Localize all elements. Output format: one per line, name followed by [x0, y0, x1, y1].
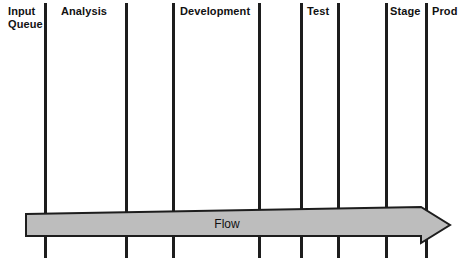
column-label-stage: Stage: [390, 5, 420, 18]
column-divider-analysis: [125, 3, 128, 258]
column-divider-development: [258, 3, 261, 258]
column-divider-input-queue: [44, 3, 47, 258]
column-divider-analysis-done: [172, 3, 175, 258]
column-divider-stage: [425, 3, 428, 258]
column-divider-test: [337, 3, 340, 258]
workflow-flow-diagram: Input Queue Analysis Development Test St…: [0, 0, 474, 266]
column-label-development: Development: [180, 5, 250, 18]
column-label-prod: Prod: [432, 5, 457, 18]
column-label-analysis: Analysis: [61, 5, 107, 18]
column-divider-development-done: [300, 3, 303, 258]
column-label-input-queue: Input Queue: [8, 5, 44, 31]
column-label-test: Test: [307, 5, 329, 18]
flow-arrow-label: Flow: [205, 217, 249, 231]
column-divider-test-done: [385, 3, 388, 258]
